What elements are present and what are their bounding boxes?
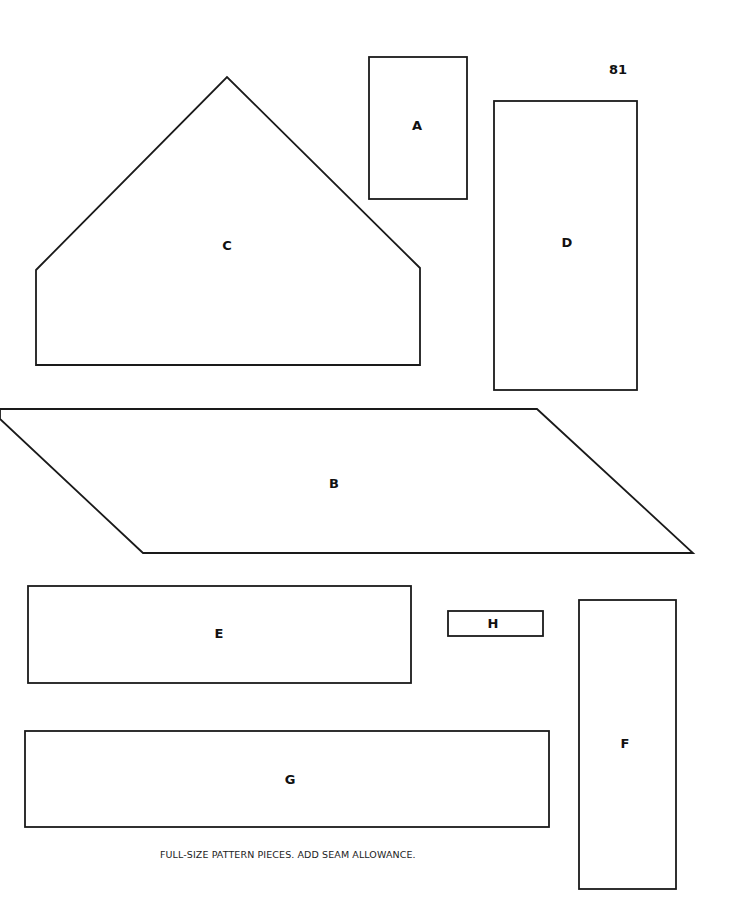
piece-label-d: D (562, 236, 573, 249)
piece-label-g: G (285, 773, 296, 786)
piece-label-c: C (222, 239, 232, 252)
page-number: 81 (609, 63, 627, 76)
pattern-pieces-drawing (0, 0, 737, 912)
instructions-caption: FULL-SIZE PATTERN PIECES. ADD SEAM ALLOW… (160, 850, 416, 860)
piece-label-a: A (412, 119, 422, 132)
piece-label-f: F (621, 737, 630, 750)
pattern-piece-c-outline (36, 77, 420, 365)
piece-label-b: B (329, 477, 339, 490)
pattern-page: 81 A D C B E H F G FULL-SIZE PATTERN PIE… (0, 0, 737, 912)
pattern-piece-b-outline (0, 409, 693, 553)
piece-label-e: E (215, 627, 224, 640)
piece-label-h: H (488, 617, 499, 630)
